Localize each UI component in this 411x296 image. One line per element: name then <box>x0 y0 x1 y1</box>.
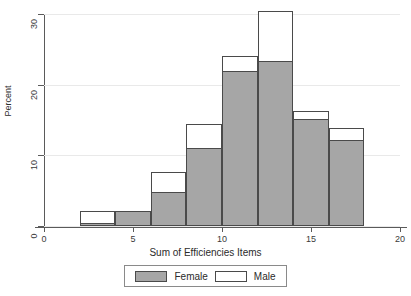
y-axis-title: Percent <box>3 71 13 131</box>
bar-group <box>258 14 294 226</box>
bar-group <box>222 14 258 226</box>
x-tick-label: 0 <box>32 234 56 244</box>
x-axis-line <box>35 227 407 228</box>
x-tick-label: 10 <box>210 234 234 244</box>
x-tick <box>311 227 312 232</box>
bar-female <box>151 192 187 226</box>
x-axis-title: Sum of Efficiencies Items <box>0 247 411 258</box>
bar-female <box>222 71 258 226</box>
y-tick-label: 10 <box>29 155 39 175</box>
x-tick-label: 5 <box>121 234 145 244</box>
x-tick-label: 15 <box>299 234 323 244</box>
chart-legend: Female Male <box>124 265 287 287</box>
bar-female <box>186 148 222 226</box>
y-tick-label: 20 <box>29 85 39 105</box>
x-tick <box>222 227 223 232</box>
bar-female <box>258 61 294 226</box>
plot-area <box>44 14 400 226</box>
x-tick <box>44 227 45 232</box>
bar-female <box>80 223 116 226</box>
legend-swatch-female <box>135 271 167 282</box>
legend-swatch-male <box>215 271 247 282</box>
x-tick-label: 20 <box>388 234 411 244</box>
histogram-chart: Percent 0102030 05101520 Sum of Efficien… <box>0 0 411 296</box>
bar-group <box>329 14 365 226</box>
y-tick-label: 30 <box>29 14 39 34</box>
bar-female <box>115 211 151 226</box>
bar-group <box>80 14 116 226</box>
bar-group <box>115 14 151 226</box>
bar-group <box>151 14 187 226</box>
x-tick <box>133 227 134 232</box>
x-tick <box>400 227 401 232</box>
bar-female <box>329 140 365 226</box>
legend-label-female: Female <box>174 271 207 282</box>
gridline <box>44 226 400 227</box>
bar-female <box>293 119 329 226</box>
legend-label-male: Male <box>254 271 276 282</box>
bar-group <box>186 14 222 226</box>
bar-group <box>293 14 329 226</box>
